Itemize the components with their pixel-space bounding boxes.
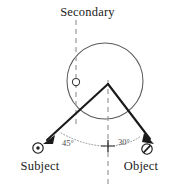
lighting-angle-diagram: Secondary Subject Object 45° 30° xyxy=(0,0,175,188)
cross-tick-icon xyxy=(101,140,115,152)
angle-label-left: 45° xyxy=(62,139,74,148)
object-ray xyxy=(108,84,154,144)
circled-dot-icon xyxy=(33,143,43,153)
subject-label: Subject xyxy=(6,160,74,173)
small-circle-icon xyxy=(72,78,79,85)
angle-label-right: 30° xyxy=(118,138,130,147)
secondary-label: Secondary xyxy=(0,6,175,19)
circled-slash-icon xyxy=(142,144,152,154)
object-label: Object xyxy=(110,160,172,173)
